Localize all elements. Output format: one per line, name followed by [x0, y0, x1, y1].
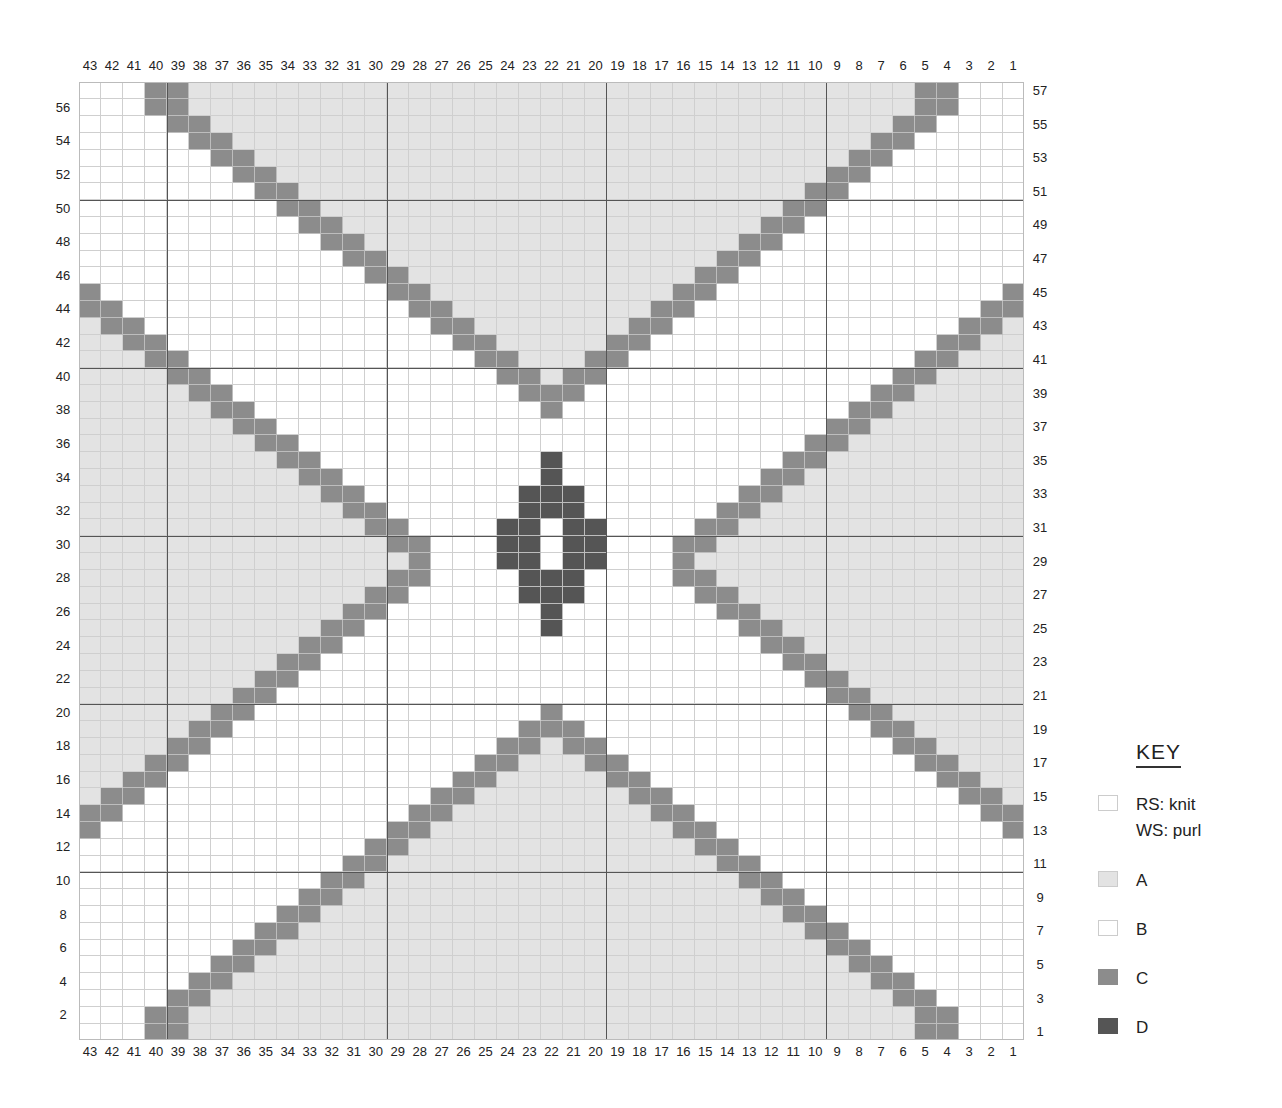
- column-number: 1: [1002, 1044, 1024, 1059]
- row-number: 31: [1028, 520, 1052, 535]
- column-number: 37: [211, 58, 233, 73]
- column-number: 7: [870, 1044, 892, 1059]
- column-number: 6: [892, 58, 914, 73]
- column-number: 34: [277, 58, 299, 73]
- row-number: 11: [1028, 856, 1052, 871]
- column-number: 16: [672, 1044, 694, 1059]
- column-number: 3: [958, 1044, 980, 1059]
- column-number: 28: [409, 58, 431, 73]
- column-number: 19: [606, 1044, 628, 1059]
- column-number: 20: [584, 1044, 606, 1059]
- column-number: 18: [628, 1044, 650, 1059]
- row-number: 17: [1028, 755, 1052, 770]
- row-number: 46: [51, 268, 75, 283]
- column-number: 17: [650, 1044, 672, 1059]
- column-number: 38: [189, 58, 211, 73]
- column-number: 42: [101, 58, 123, 73]
- row-number: 47: [1028, 251, 1052, 266]
- column-number: 4: [936, 1044, 958, 1059]
- column-number: 35: [255, 58, 277, 73]
- column-number: 33: [299, 1044, 321, 1059]
- column-number: 10: [804, 58, 826, 73]
- key-title: KEY: [1136, 740, 1181, 768]
- column-number: 5: [914, 58, 936, 73]
- column-number: 8: [848, 1044, 870, 1059]
- row-number: 4: [51, 974, 75, 989]
- column-number: 38: [189, 1044, 211, 1059]
- column-number: 39: [167, 58, 189, 73]
- column-number: 14: [716, 58, 738, 73]
- column-number: 36: [233, 58, 255, 73]
- row-number: 21: [1028, 688, 1052, 703]
- row-number: 42: [51, 335, 75, 350]
- column-number: 1: [1002, 58, 1024, 73]
- column-number: 17: [650, 58, 672, 73]
- column-number: 32: [321, 1044, 343, 1059]
- column-number: 14: [716, 1044, 738, 1059]
- column-number: 19: [606, 58, 628, 73]
- column-number: 5: [914, 1044, 936, 1059]
- swatch-knit: [1098, 795, 1118, 811]
- row-number: 44: [51, 301, 75, 316]
- column-number: 12: [760, 1044, 782, 1059]
- row-number: 33: [1028, 486, 1052, 501]
- column-number: 7: [870, 58, 892, 73]
- column-number: 13: [738, 1044, 760, 1059]
- key-label: A: [1136, 868, 1147, 894]
- row-number: 51: [1028, 184, 1052, 199]
- row-number: 28: [51, 570, 75, 585]
- column-number: 15: [694, 1044, 716, 1059]
- row-number: 1: [1028, 1024, 1052, 1039]
- row-number: 6: [51, 940, 75, 955]
- column-number: 36: [233, 1044, 255, 1059]
- column-number: 24: [497, 58, 519, 73]
- key-label: RS: knit WS: purl: [1136, 792, 1201, 844]
- column-number: 24: [497, 1044, 519, 1059]
- row-number: 22: [51, 671, 75, 686]
- chart-frame: [79, 82, 1024, 1040]
- row-number: 54: [51, 133, 75, 148]
- row-number: 10: [51, 873, 75, 888]
- column-number: 30: [365, 58, 387, 73]
- column-number: 10: [804, 1044, 826, 1059]
- row-number: 3: [1028, 991, 1052, 1006]
- row-number: 18: [51, 738, 75, 753]
- swatch-a: [1098, 871, 1118, 887]
- row-number: 36: [51, 436, 75, 451]
- column-number: 9: [826, 1044, 848, 1059]
- column-number: 21: [562, 58, 584, 73]
- column-number: 29: [387, 58, 409, 73]
- column-number: 37: [211, 1044, 233, 1059]
- key-label: C: [1136, 966, 1148, 992]
- column-number: 43: [79, 58, 101, 73]
- row-number: 27: [1028, 587, 1052, 602]
- column-number: 33: [299, 58, 321, 73]
- swatch-d: [1098, 1018, 1118, 1034]
- row-number: 26: [51, 604, 75, 619]
- key-label: B: [1136, 917, 1147, 943]
- row-number: 55: [1028, 117, 1052, 132]
- column-number: 40: [145, 58, 167, 73]
- column-number: 43: [79, 1044, 101, 1059]
- row-number: 14: [51, 806, 75, 821]
- column-number: 27: [431, 58, 453, 73]
- row-number: 29: [1028, 554, 1052, 569]
- column-number: 8: [848, 58, 870, 73]
- row-number: 13: [1028, 823, 1052, 838]
- column-number: 18: [628, 58, 650, 73]
- row-number: 20: [51, 705, 75, 720]
- column-number: 41: [123, 58, 145, 73]
- column-number: 21: [562, 1044, 584, 1059]
- row-number: 57: [1028, 83, 1052, 98]
- row-number: 38: [51, 402, 75, 417]
- row-number: 23: [1028, 654, 1052, 669]
- column-number: 13: [738, 58, 760, 73]
- swatch-b: [1098, 920, 1118, 936]
- column-number: 23: [519, 58, 541, 73]
- column-number: 25: [475, 58, 497, 73]
- column-number: 11: [782, 1044, 804, 1059]
- row-number: 37: [1028, 419, 1052, 434]
- row-number: 19: [1028, 722, 1052, 737]
- row-number: 49: [1028, 217, 1052, 232]
- row-number: 34: [51, 470, 75, 485]
